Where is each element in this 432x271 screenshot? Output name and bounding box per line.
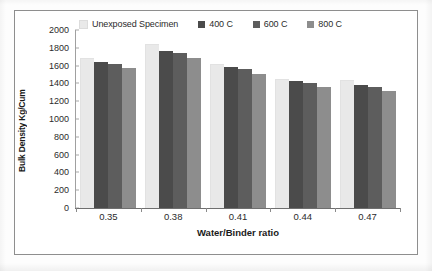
bar <box>187 58 201 208</box>
chart-frame: Unexposed Specimen400 C600 C800 C Bulk D… <box>14 10 418 255</box>
bar <box>303 83 317 208</box>
x-axis-tick-mark <box>400 208 401 212</box>
bar <box>275 79 289 208</box>
bar <box>159 51 173 208</box>
y-axis-tick-label: 1600 <box>49 61 69 71</box>
bar <box>173 53 187 208</box>
y-axis-tick-label: 0 <box>64 203 69 213</box>
bar <box>238 69 252 208</box>
bar-group <box>76 30 141 208</box>
bar-group <box>206 30 271 208</box>
y-axis-tick-label: 1200 <box>49 96 69 106</box>
bar-group <box>141 30 206 208</box>
bar <box>224 67 238 208</box>
x-axis-tick-mark <box>206 208 207 212</box>
bar <box>108 64 122 208</box>
x-axis-tick-mark <box>76 208 77 212</box>
y-axis-tick-label: 1800 <box>49 43 69 53</box>
x-axis-tick-label: 0.38 <box>141 211 206 222</box>
y-axis-tick-label: 2000 <box>49 25 69 35</box>
x-axis-tick-label: 0.35 <box>76 211 141 222</box>
bar <box>252 74 266 208</box>
x-axis-line <box>75 208 400 209</box>
bar <box>145 44 159 208</box>
chart-screenshot: Unexposed Specimen400 C600 C800 C Bulk D… <box>0 0 432 271</box>
bar <box>317 87 331 208</box>
y-axis-title: Bulk Density Kg/Cum <box>17 71 31 191</box>
x-axis-tick-label: 0.44 <box>270 211 335 222</box>
x-axis-tick-label: 0.47 <box>335 211 400 222</box>
bar-group <box>335 30 400 208</box>
x-axis-tick-mark <box>141 208 142 212</box>
bar <box>80 58 94 208</box>
bar <box>94 62 108 208</box>
y-axis-tick-label: 600 <box>54 150 69 160</box>
plot-area <box>76 30 400 208</box>
bar <box>289 81 303 208</box>
y-axis-ticks: 2000180016001400120010008006004002000 <box>31 26 75 208</box>
bar <box>382 91 396 208</box>
x-axis-title: Water/Binder ratio <box>76 227 400 238</box>
plot-wrapper: Bulk Density Kg/Cum 20001800160014001200… <box>15 11 419 256</box>
y-axis-tick-label: 1000 <box>49 114 69 124</box>
y-axis-tick-label: 800 <box>54 132 69 142</box>
bar <box>210 64 224 208</box>
bar <box>340 80 354 208</box>
x-axis-labels: 0.350.380.410.440.47 <box>76 211 400 222</box>
bar <box>368 87 382 208</box>
y-axis-tick-label: 200 <box>54 185 69 195</box>
y-axis-tick-label: 400 <box>54 167 69 177</box>
bar <box>122 68 136 208</box>
bar <box>354 85 368 208</box>
x-axis-tick-mark <box>270 208 271 212</box>
y-axis-tick-label: 1400 <box>49 78 69 88</box>
bar-group <box>270 30 335 208</box>
x-axis-tick-mark <box>335 208 336 212</box>
x-axis-tick-label: 0.41 <box>206 211 271 222</box>
